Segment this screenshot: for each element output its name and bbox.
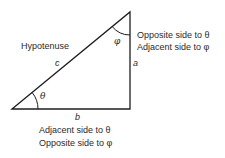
theta-label: θ [40,91,45,102]
side-b-description-line2: Opposite side to φ [39,138,112,149]
side-c-label: c [55,58,60,69]
hypotenuse-label: Hypotenuse [21,41,69,52]
theta-arc [32,93,38,110]
right-triangle-diagram: Hypotenuse c θ φ a b Opposite side to θ … [0,0,225,158]
side-a-label: a [133,58,138,69]
side-a-description-line2: Adjacent side to φ [137,42,209,53]
phi-label: φ [114,36,120,47]
phi-arc [112,27,130,35]
side-b-description-line1: Adjacent side to θ [39,125,111,136]
triangle-figure [0,0,225,158]
side-b-label: b [75,112,80,123]
side-a-description-line1: Opposite side to θ [137,30,210,41]
